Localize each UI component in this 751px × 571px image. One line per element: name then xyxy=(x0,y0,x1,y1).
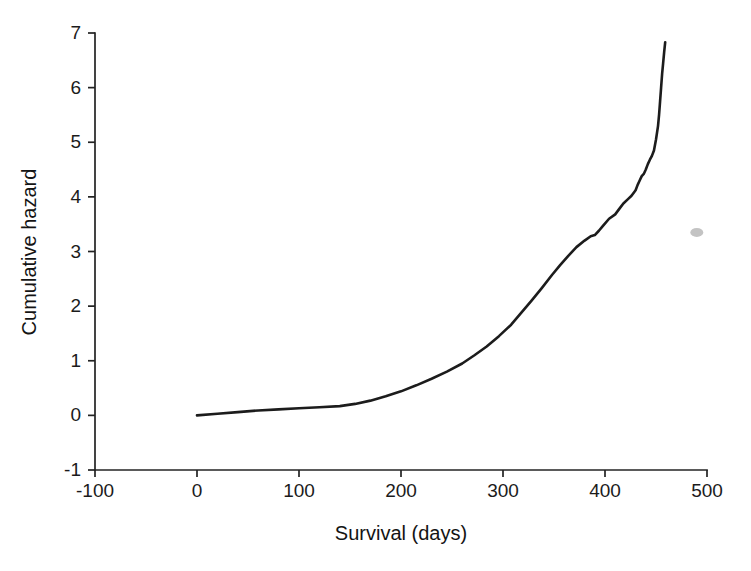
x-tick-label-400: 400 xyxy=(589,480,621,501)
chart-canvas: -101234567-1000100200300400500 Survival … xyxy=(0,0,751,571)
y-tick-label-5: 5 xyxy=(70,131,81,152)
y-tick-label-0: 0 xyxy=(70,404,81,425)
ticks-group xyxy=(88,33,707,477)
annotations-group xyxy=(690,228,703,237)
chart-figure: -101234567-1000100200300400500 Survival … xyxy=(0,0,751,571)
x-axis-title: Survival (days) xyxy=(335,522,467,544)
y-axis-title: Cumulative hazard xyxy=(18,169,40,336)
x-tick-label--100: -100 xyxy=(76,480,114,501)
x-tick-label-0: 0 xyxy=(192,480,203,501)
axes-group xyxy=(95,33,707,470)
x-tick-label-300: 300 xyxy=(487,480,519,501)
y-tick-label-4: 4 xyxy=(70,186,81,207)
scan-blemish xyxy=(690,228,703,237)
data-series-0 xyxy=(197,42,665,415)
tick-labels-group: -101234567-1000100200300400500 xyxy=(64,22,723,501)
x-tick-label-200: 200 xyxy=(385,480,417,501)
y-tick-label--1: -1 xyxy=(64,459,81,480)
y-tick-label-6: 6 xyxy=(70,77,81,98)
y-tick-label-1: 1 xyxy=(70,350,81,371)
data-series-group xyxy=(197,42,665,415)
x-tick-label-500: 500 xyxy=(691,480,723,501)
x-tick-label-100: 100 xyxy=(283,480,315,501)
y-tick-label-2: 2 xyxy=(70,295,81,316)
y-tick-label-3: 3 xyxy=(70,241,81,262)
y-tick-label-7: 7 xyxy=(70,22,81,43)
